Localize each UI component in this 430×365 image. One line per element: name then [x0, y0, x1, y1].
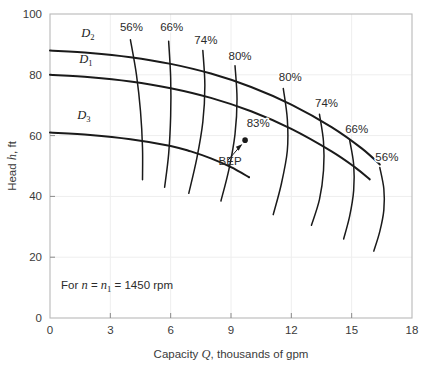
- chart-background: [0, 0, 430, 365]
- diameter-label-base: D: [78, 52, 88, 66]
- y-tick-label: 0: [36, 312, 42, 324]
- diameter-label-base: D: [76, 108, 86, 122]
- x-tick-label: 15: [345, 324, 358, 336]
- diameter-label-subscript: 3: [86, 114, 90, 124]
- note-equals-1: =: [88, 279, 101, 291]
- x-tick-label: 0: [47, 324, 53, 336]
- efficiency-label: 74%: [315, 97, 338, 109]
- chart-canvas: 0369121518 020406080100 56%56%66%66%74%7…: [0, 0, 430, 365]
- y-axis-title: Head h, ft: [5, 140, 19, 191]
- diameter-label-base: D: [80, 26, 90, 40]
- x-tick-label: 3: [107, 324, 113, 336]
- efficiency-label: 56%: [375, 151, 398, 163]
- diameter-label-subscript: 2: [90, 32, 94, 42]
- y-axis-title-part: Head: [6, 160, 18, 191]
- efficiency-label: 80%: [229, 50, 252, 62]
- y-tick-label: 80: [29, 69, 42, 81]
- x-axis-title-part: , thousands of gpm: [211, 348, 309, 360]
- x-axis-title: Capacity Q, thousands of gpm: [154, 347, 309, 361]
- x-axis-title-symbol: Q: [202, 347, 211, 361]
- bep-label: BEP: [219, 155, 242, 167]
- efficiency-label: 83%: [247, 117, 270, 129]
- efficiency-label: 66%: [160, 21, 183, 33]
- x-tick-label: 9: [228, 324, 234, 336]
- x-tick-label: 6: [167, 324, 173, 336]
- x-axis-title-part: Capacity: [154, 348, 202, 360]
- y-axis-title-part: , ft: [6, 140, 18, 154]
- y-tick-label: 40: [29, 190, 42, 202]
- y-tick-label: 60: [29, 130, 42, 142]
- y-tick-label: 100: [23, 8, 42, 20]
- efficiency-label: 56%: [120, 21, 143, 33]
- note-value: 1450 rpm: [124, 279, 173, 291]
- y-tick-label: 20: [29, 251, 42, 263]
- efficiency-label: 66%: [345, 123, 368, 135]
- efficiency-label: 80%: [279, 71, 302, 83]
- pump-performance-chart: 0369121518 020406080100 56%56%66%66%74%7…: [0, 0, 430, 365]
- diameter-label-subscript: 1: [88, 58, 92, 68]
- note-equals-2: =: [111, 279, 124, 291]
- efficiency-label: 74%: [194, 34, 217, 46]
- x-tick-label: 18: [406, 324, 419, 336]
- x-tick-label: 12: [285, 324, 298, 336]
- note-prefix: For: [61, 279, 81, 291]
- bep-marker: [242, 137, 248, 143]
